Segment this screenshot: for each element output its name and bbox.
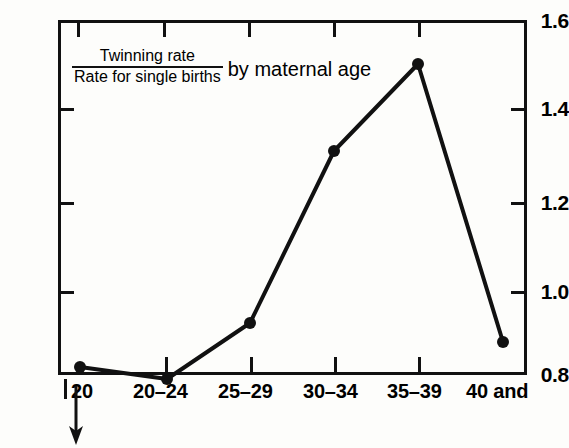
x-tick-label-20-24: 20–24 xyxy=(133,381,188,401)
title-suffix: by maternal age xyxy=(223,52,371,81)
y-tick-mark-1-0 xyxy=(58,291,74,294)
down-arrow-icon xyxy=(66,386,86,446)
y-tick-mark-right-1-0 xyxy=(511,291,527,294)
x-tick-mark-top-5 xyxy=(418,20,421,37)
x-tick-mark-top-1 xyxy=(77,20,80,37)
x-tick-label-35-39: 35–39 xyxy=(387,381,442,401)
x-tick-label-40-and: 40 and xyxy=(466,381,528,401)
x-tick-label-30-34: 30–34 xyxy=(303,381,358,401)
y-tick-mark-right-1-2 xyxy=(511,202,527,205)
y-tick-mark-1-2 xyxy=(58,202,74,205)
x-tick-mark-bottom-3 xyxy=(334,357,337,374)
y-tick-mark-right-1-4 xyxy=(511,108,527,111)
title-fraction: Twinning rate Rate for single births xyxy=(72,48,223,86)
x-tick-mark-bottom-1 xyxy=(165,357,168,374)
title-numerator: Twinning rate xyxy=(94,48,201,66)
y-tick-mark-1-4 xyxy=(58,108,74,111)
title-denominator: Rate for single births xyxy=(72,68,223,86)
x-tick-mark-top-4 xyxy=(333,20,336,37)
x-tick-mark-bottom-2 xyxy=(250,357,253,374)
x-tick-mark-bottom-4 xyxy=(418,357,421,374)
x-tick-label-25-29: 25–29 xyxy=(218,381,273,401)
x-tick-mark-top-3 xyxy=(248,20,251,37)
chart-title: Twinning rate Rate for single births by … xyxy=(72,48,371,86)
chart-page: 1.6 1.4 1.2 1.0 0.8 20 20–24 25–29 30–34… xyxy=(0,0,569,448)
x-tick-mark-top-2 xyxy=(163,20,166,37)
y-tick-label-1-6: 1.6 xyxy=(517,10,569,31)
